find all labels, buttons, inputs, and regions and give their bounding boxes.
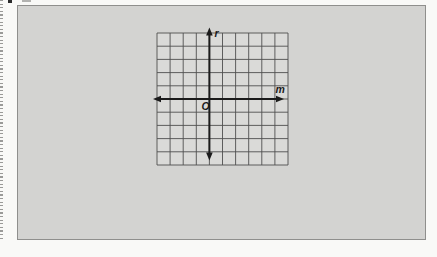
origin-label: O [202, 100, 210, 112]
scanned-page: { "figure": { "type": "coordinate-grid",… [0, 0, 437, 257]
coordinate-grid-figure: r m O [0, 0, 437, 257]
arrowhead-up-icon [206, 28, 213, 36]
x-axis-label: m [276, 83, 285, 95]
